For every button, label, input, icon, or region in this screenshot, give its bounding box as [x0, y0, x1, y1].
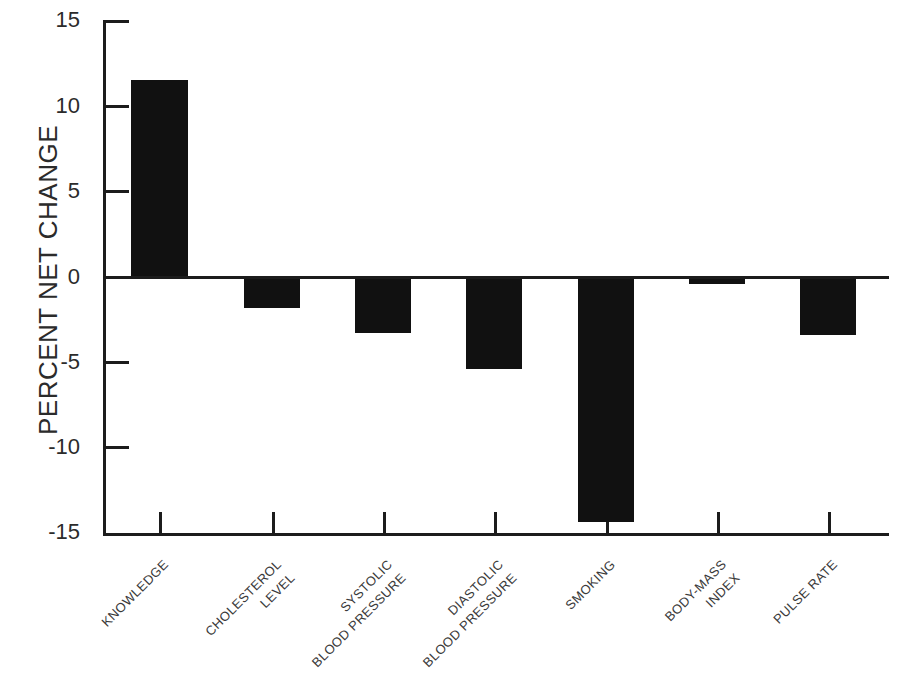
plot-area: [103, 20, 889, 536]
x-tick-cholesterol: [272, 512, 275, 533]
bar-body-mass-index: [689, 279, 745, 284]
bar-knowledge: [131, 80, 188, 276]
y-tick-neg5: [106, 361, 129, 364]
x-tick-pulse-rate: [828, 512, 831, 533]
x-label-knowledge-line1: KNOWLEDGE: [98, 557, 171, 630]
x-label-knowledge: KNOWLEDGE: [19, 556, 174, 679]
x-tick-systolic: [383, 512, 386, 533]
bar-cholesterol-level: [244, 279, 300, 308]
x-axis-line: [103, 533, 889, 536]
y-tick-5: [106, 190, 129, 193]
x-tick-body-mass: [717, 512, 720, 533]
x-label-smoking-line1: SMOKING: [562, 557, 618, 613]
bar-pulse-rate: [800, 279, 856, 335]
y-tick-15: [106, 20, 129, 23]
x-label-pulse-rate-line1: PULSE RATE: [770, 557, 840, 627]
bar-smoking: [578, 279, 634, 522]
y-tick-label-5: 5: [28, 180, 80, 202]
y-tick-label-0: 0: [28, 266, 80, 288]
bar-systolic-blood-pressure: [355, 279, 411, 333]
y-tick-label-neg10: -10: [28, 436, 80, 458]
y-tick-neg10: [106, 446, 129, 449]
x-tick-diastolic: [494, 512, 497, 533]
y-tick-label-neg15: -15: [28, 521, 80, 543]
y-tick-10: [106, 105, 129, 108]
y-tick-label-10: 10: [28, 95, 80, 117]
y-tick-label-neg5: -5: [28, 351, 80, 373]
x-tick-knowledge: [159, 512, 162, 533]
y-tick-label-15: 15: [28, 9, 80, 31]
bar-chart-figure: PERCENT NET CHANGE 15 10 5 0 -5 -10 -15: [0, 0, 907, 679]
bar-diastolic-blood-pressure: [466, 279, 522, 369]
